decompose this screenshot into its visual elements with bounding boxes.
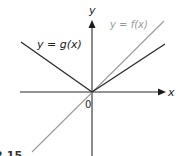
figure-caption-fragment: 2.15 (0, 149, 22, 156)
x-axis-arrow-icon (158, 89, 166, 96)
origin-label: 0 (85, 99, 91, 110)
function-graph-diagram: y x 0 y = f(x) y = g(x) 2.15 (0, 0, 179, 156)
x-axis-label: x (167, 86, 175, 99)
y-axis-arrow-icon (89, 20, 96, 28)
y-axis-label: y (88, 4, 96, 17)
curve-f-label: y = f(x) (109, 19, 148, 30)
curve-g-label: y = g(x) (36, 38, 82, 51)
